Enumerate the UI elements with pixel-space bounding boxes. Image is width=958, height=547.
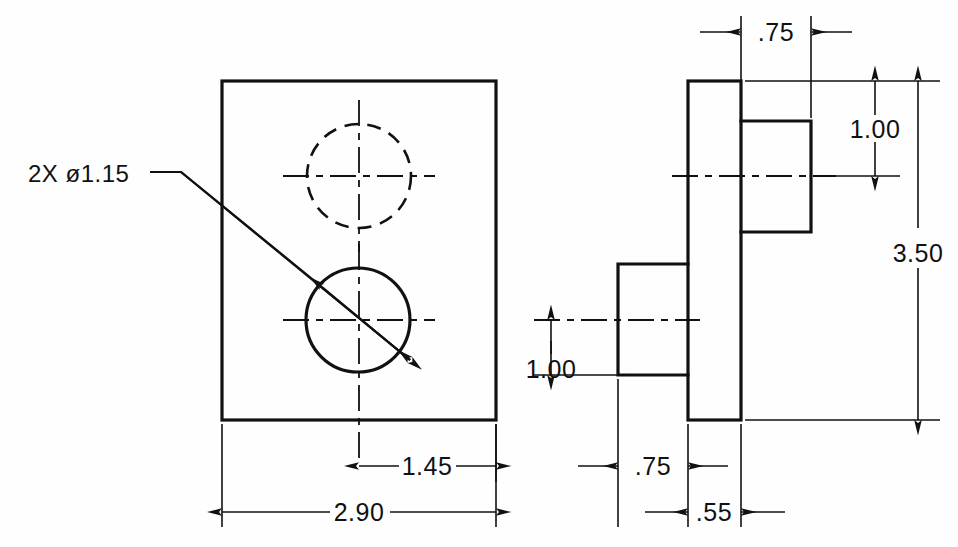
- side-view-plate-outline: [688, 81, 741, 420]
- drawing-sheet: 2X ø1.15 1.45 2.90: [0, 0, 958, 547]
- dimension-right-1-00[interactable]: 1.00: [850, 81, 901, 176]
- dim-right-1-00-text: 1.00: [850, 115, 901, 143]
- dim-left-1-00-text: 1.00: [526, 355, 577, 383]
- hole-callout-leader-lower-segment: [322, 287, 410, 360]
- dimension-1-45[interactable]: 1.45: [359, 452, 496, 480]
- dimension-left-1-00[interactable]: 1.00: [526, 320, 577, 383]
- dimension-top-75[interactable]: .75: [700, 18, 852, 46]
- front-view: [222, 81, 496, 462]
- dimension-2-90[interactable]: 2.90: [222, 498, 496, 526]
- dim-1-45-text: 1.45: [402, 452, 453, 480]
- hole-callout-text: 2X ø1.15: [28, 160, 129, 187]
- hole-callout-leader-line: [150, 172, 410, 360]
- dim-3-50-text: 3.50: [893, 239, 944, 267]
- right-side-view: [534, 81, 836, 420]
- dim-top-75-text: .75: [758, 18, 794, 46]
- hole-callout-group[interactable]: 2X ø1.15: [28, 160, 410, 360]
- dim-2-90-text: 2.90: [334, 498, 385, 526]
- dim-55-text: .55: [696, 498, 732, 526]
- dimension-55[interactable]: .55: [645, 498, 785, 526]
- hole-callout-leader-upper-segment: [181, 172, 322, 287]
- dimension-bottom-75[interactable]: .75: [578, 452, 728, 480]
- side-view-dimensions: .75 1.00 3.50 1.00 .75: [526, 16, 944, 527]
- dim-bottom-75-text: .75: [635, 452, 671, 480]
- technical-drawing-canvas: 2X ø1.15 1.45 2.90: [0, 0, 958, 547]
